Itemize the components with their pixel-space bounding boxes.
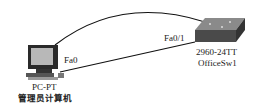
switch-icon[interactable] [195,18,245,42]
ethernet-link[interactable] [60,42,195,72]
switch-name-label: OfficeSw1 [198,58,237,68]
switch-model-label: 2960-24TT [196,47,237,57]
pc-name-label: 管理员计算机 [18,93,72,103]
pc-model-label: PC-PT [32,82,57,92]
pc-port-label: Fa0 [64,55,78,65]
pc-icon[interactable] [26,45,64,80]
switch-port-label: Fa0/1 [164,33,185,43]
